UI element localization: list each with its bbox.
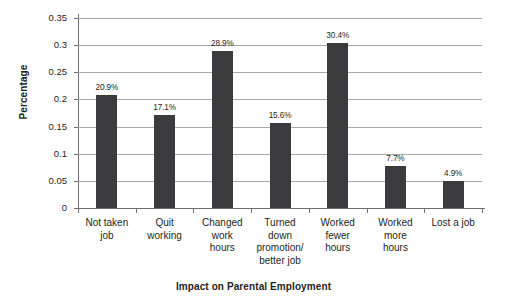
x-axis-category-line: better job xyxy=(238,255,322,268)
x-axis-category-line: more xyxy=(353,230,437,243)
y-axis-tick xyxy=(74,127,78,128)
bar xyxy=(212,51,233,208)
y-axis-tick-labels: 00.050.10.150.20.250.30.35 xyxy=(0,0,74,303)
x-axis-tick xyxy=(251,208,252,213)
y-axis-tick xyxy=(74,181,78,182)
y-axis-tick xyxy=(74,154,78,155)
plot-area: 20.9%17.1%28.9%15.6%30.4%7.7%4.9% xyxy=(78,18,482,208)
y-axis-tick-label: 0.3 xyxy=(54,40,67,50)
bar xyxy=(385,166,406,208)
gridline xyxy=(78,45,482,46)
y-axis-tick xyxy=(74,18,78,19)
bar xyxy=(443,181,464,208)
bar-chart-figure: Percentage 00.050.10.150.20.250.30.35 20… xyxy=(0,0,507,303)
bar xyxy=(154,115,175,208)
x-axis-title: Impact on Parental Employment xyxy=(0,281,507,292)
x-axis-tick xyxy=(193,208,194,213)
x-axis-category-line: hours xyxy=(353,242,437,255)
y-axis-tick-label: 0 xyxy=(62,203,67,213)
y-axis-tick xyxy=(74,99,78,100)
bar-value-label: 28.9% xyxy=(192,39,252,48)
bar xyxy=(270,123,291,208)
x-axis-category-label: Lost a job xyxy=(411,217,495,230)
x-axis-tick xyxy=(78,208,79,213)
gridline xyxy=(78,18,482,19)
gridline xyxy=(78,99,482,100)
y-axis-tick-label: 0.35 xyxy=(49,13,68,23)
bar xyxy=(327,43,348,208)
x-axis-tick xyxy=(367,208,368,213)
y-axis-tick-label: 0.15 xyxy=(49,122,68,132)
bar-value-label: 15.6% xyxy=(250,111,310,120)
x-axis-tick xyxy=(482,208,483,213)
gridline xyxy=(78,72,482,73)
y-axis-tick-label: 0.05 xyxy=(49,176,68,186)
x-axis-tick xyxy=(309,208,310,213)
bar-value-label: 4.9% xyxy=(423,169,483,178)
y-axis-tick xyxy=(74,72,78,73)
bar-value-label: 20.9% xyxy=(77,83,137,92)
x-axis-tick xyxy=(424,208,425,213)
x-axis-tick xyxy=(136,208,137,213)
y-axis-tick-label: 0.25 xyxy=(49,67,68,77)
bar xyxy=(96,95,117,208)
x-axis-category-line: Lost a job xyxy=(411,217,495,230)
bar-value-label: 30.4% xyxy=(308,31,368,40)
y-axis-tick xyxy=(74,45,78,46)
y-axis-tick-label: 0.1 xyxy=(54,149,67,159)
y-axis-tick-label: 0.2 xyxy=(54,94,67,104)
bar-value-label: 7.7% xyxy=(365,154,425,163)
bar-value-label: 17.1% xyxy=(135,103,195,112)
